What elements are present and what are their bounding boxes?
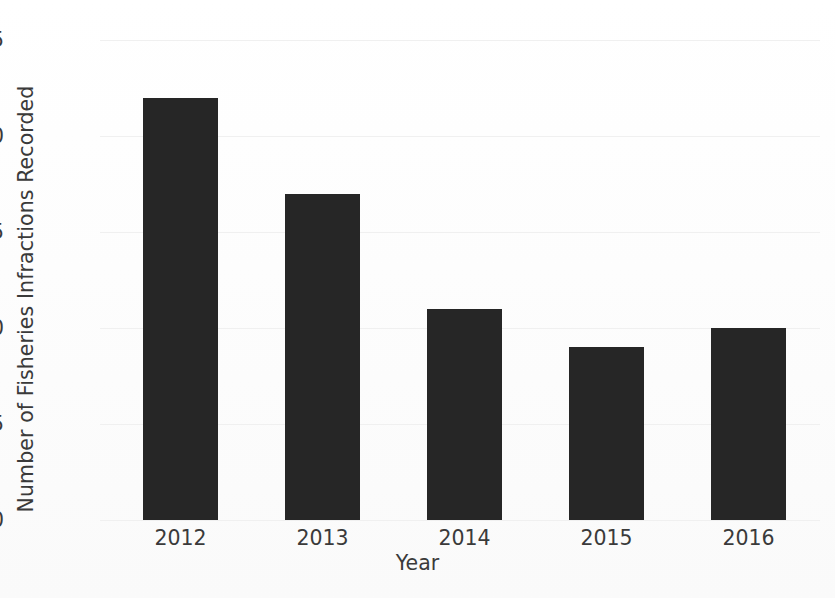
x-tick-label: 2016 (722, 526, 774, 550)
gridline (100, 40, 820, 41)
y-tick-label: 20 (0, 126, 4, 147)
x-tick-label: 2015 (580, 526, 632, 550)
y-tick-label: 15 (0, 222, 4, 243)
plot-area: 0510152025 20122013201420152016 (100, 40, 820, 520)
bar (711, 328, 786, 520)
y-tick-label: 25 (0, 30, 4, 51)
x-axis-title: Year (0, 551, 835, 575)
bar (569, 347, 644, 520)
y-tick-label: 0 (0, 510, 4, 531)
bar-chart-figure: Number of Fisheries Infractions Recorded… (0, 0, 835, 598)
x-tick-label: 2012 (154, 526, 206, 550)
y-tick-label: 5 (0, 414, 4, 435)
x-tick-label: 2014 (438, 526, 490, 550)
x-tick-label: 2013 (296, 526, 348, 550)
bar (285, 194, 360, 520)
y-axis-title: Number of Fisheries Infractions Recorded (0, 0, 52, 598)
bar (427, 309, 502, 520)
y-tick-label: 10 (0, 318, 4, 339)
gridline (100, 520, 820, 521)
bar (143, 98, 218, 520)
